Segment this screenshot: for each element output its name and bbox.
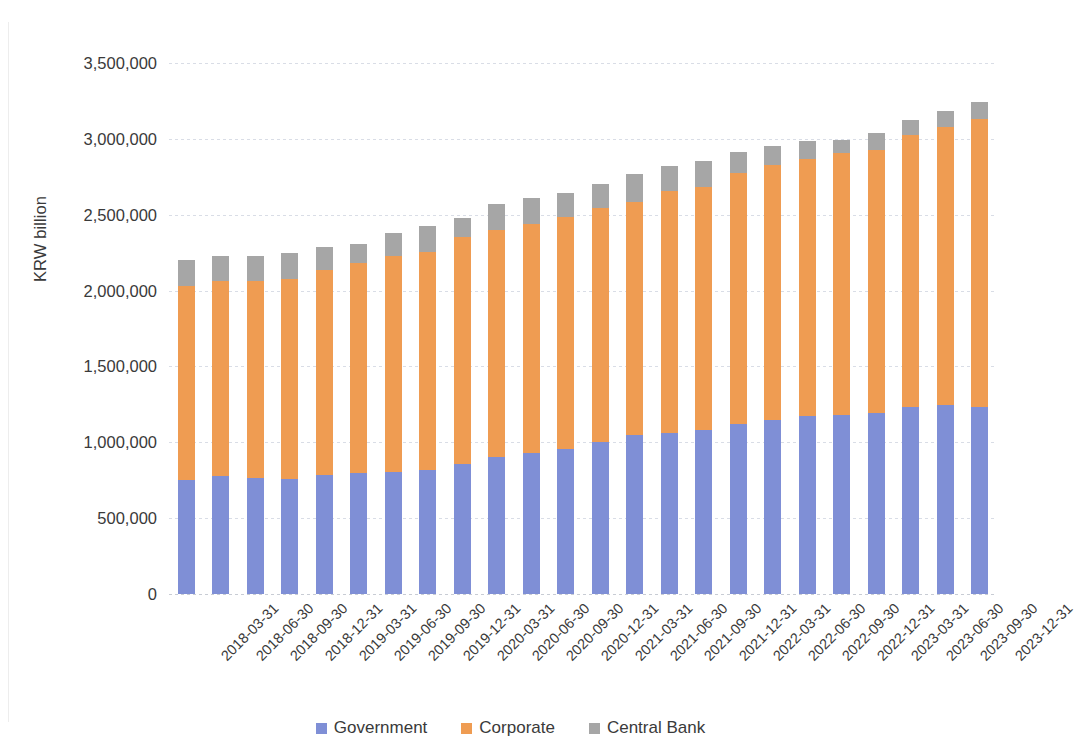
bar-segment-central-bank[interactable] [937, 111, 954, 127]
plot-area: 0500,0001,000,0001,500,0002,000,0002,500… [169, 63, 997, 594]
bar-segment-corporate[interactable] [661, 191, 678, 433]
y-axis-tick-label: 1,000,000 [21, 433, 157, 452]
y-axis-tick-label: 2,500,000 [21, 205, 157, 224]
bar-segment-central-bank[interactable] [178, 260, 195, 286]
bar-segment-corporate[interactable] [350, 263, 367, 473]
bar-segment-corporate[interactable] [281, 279, 298, 479]
legend-label: Corporate [479, 718, 555, 738]
bar-segment-government[interactable] [454, 464, 471, 594]
bar-segment-corporate[interactable] [178, 286, 195, 480]
bar-segment-central-bank[interactable] [454, 218, 471, 238]
y-axis-tick-label: 0 [21, 585, 157, 604]
bar-segment-government[interactable] [971, 407, 988, 594]
bar-segment-corporate[interactable] [454, 237, 471, 463]
y-axis-tick-label: 3,500,000 [21, 54, 157, 73]
bar-segment-central-bank[interactable] [868, 133, 885, 150]
bar-segment-government[interactable] [799, 416, 816, 594]
bar-segment-government[interactable] [902, 407, 919, 594]
bar-segment-corporate[interactable] [902, 135, 919, 407]
bar-segment-central-bank[interactable] [764, 146, 781, 166]
bar-segment-government[interactable] [764, 420, 781, 594]
bar-segment-corporate[interactable] [764, 165, 781, 419]
y-axis-tick-label: 500,000 [21, 509, 157, 528]
bar-segment-government[interactable] [523, 453, 540, 594]
bar-segment-government[interactable] [833, 415, 850, 594]
chart-legend: GovernmentCorporateCentral Bank [9, 718, 1012, 738]
legend-item[interactable]: Central Bank [589, 718, 705, 738]
bar-segment-corporate[interactable] [247, 281, 264, 477]
bar-segment-government[interactable] [350, 473, 367, 594]
legend-swatch-icon [461, 723, 472, 734]
bar-segment-corporate[interactable] [316, 270, 333, 475]
bar-segment-central-bank[interactable] [419, 226, 436, 252]
bar-segment-corporate[interactable] [488, 230, 505, 458]
bar-segment-central-bank[interactable] [730, 152, 747, 173]
bar-segment-corporate[interactable] [557, 217, 574, 449]
bar-segment-central-bank[interactable] [592, 184, 609, 208]
bar-segment-central-bank[interactable] [281, 253, 298, 279]
bar-segment-government[interactable] [247, 478, 264, 594]
legend-item[interactable]: Corporate [461, 718, 555, 738]
bar-segment-central-bank[interactable] [626, 174, 643, 202]
bar-segment-government[interactable] [661, 433, 678, 594]
bar-segment-corporate[interactable] [385, 256, 402, 471]
bar-segment-central-bank[interactable] [902, 120, 919, 135]
chart-container: KRW billion 0500,0001,000,0001,500,0002,… [8, 22, 995, 722]
bar-segment-central-bank[interactable] [799, 141, 816, 159]
bar-segment-central-bank[interactable] [971, 102, 988, 119]
bar-segment-government[interactable] [557, 449, 574, 594]
bar-segment-government[interactable] [316, 475, 333, 594]
bar-segment-corporate[interactable] [971, 119, 988, 407]
bar-segment-corporate[interactable] [937, 127, 954, 405]
bar-segment-government[interactable] [281, 479, 298, 594]
bar-segment-corporate[interactable] [833, 153, 850, 415]
y-axis-tick-label: 3,000,000 [21, 129, 157, 148]
y-axis-tick-label: 1,500,000 [21, 357, 157, 376]
bar-segment-government[interactable] [730, 424, 747, 594]
bar-series-group [169, 63, 997, 594]
bar-segment-government[interactable] [178, 480, 195, 594]
legend-label: Government [334, 718, 428, 738]
legend-item[interactable]: Government [316, 718, 428, 738]
bar-segment-government[interactable] [626, 435, 643, 594]
bar-segment-corporate[interactable] [212, 281, 229, 477]
bar-segment-central-bank[interactable] [488, 204, 505, 230]
bar-segment-corporate[interactable] [523, 224, 540, 453]
bar-segment-corporate[interactable] [592, 208, 609, 442]
bar-segment-central-bank[interactable] [247, 256, 264, 281]
bar-segment-corporate[interactable] [730, 173, 747, 424]
bar-segment-corporate[interactable] [626, 202, 643, 436]
bar-segment-central-bank[interactable] [212, 256, 229, 281]
bar-segment-government[interactable] [937, 405, 954, 594]
bar-segment-corporate[interactable] [419, 252, 436, 470]
bar-segment-government[interactable] [868, 413, 885, 594]
legend-label: Central Bank [607, 718, 705, 738]
bar-segment-central-bank[interactable] [316, 247, 333, 270]
bar-segment-government[interactable] [695, 430, 712, 594]
bar-segment-government[interactable] [212, 476, 229, 594]
bar-segment-central-bank[interactable] [557, 193, 574, 217]
bar-segment-corporate[interactable] [799, 159, 816, 415]
bar-segment-corporate[interactable] [868, 150, 885, 412]
bar-segment-central-bank[interactable] [385, 233, 402, 257]
bar-segment-corporate[interactable] [695, 187, 712, 431]
gridline [169, 594, 997, 595]
bar-segment-central-bank[interactable] [523, 198, 540, 224]
bar-segment-government[interactable] [385, 472, 402, 594]
bar-segment-government[interactable] [592, 442, 609, 594]
bar-segment-central-bank[interactable] [661, 166, 678, 191]
bar-segment-central-bank[interactable] [350, 244, 367, 263]
bar-segment-government[interactable] [488, 457, 505, 594]
bar-segment-central-bank[interactable] [833, 140, 850, 153]
y-axis-tick-label: 2,000,000 [21, 281, 157, 300]
legend-swatch-icon [316, 723, 327, 734]
legend-swatch-icon [589, 723, 600, 734]
bar-segment-central-bank[interactable] [695, 161, 712, 187]
bar-segment-government[interactable] [419, 470, 436, 594]
x-axis-labels: 2018-03-312018-06-302018-09-302018-12-31… [169, 600, 997, 710]
